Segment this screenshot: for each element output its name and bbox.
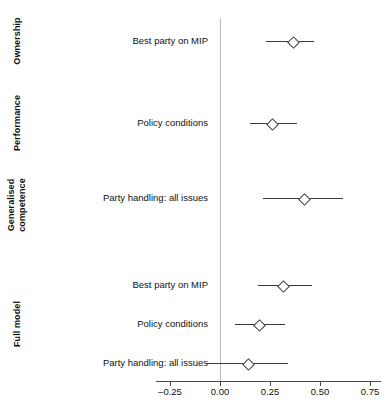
- point-estimate-marker: [298, 193, 311, 206]
- x-axis-tick-label: –0.25: [158, 386, 182, 397]
- point-estimate-marker: [287, 36, 300, 49]
- point-estimate-marker: [242, 358, 255, 371]
- x-axis-tick-label: 0.00: [211, 386, 230, 397]
- point-estimate-marker: [277, 280, 290, 293]
- point-estimate-marker: [253, 319, 266, 332]
- x-axis-tick-label: 0.25: [261, 386, 280, 397]
- zero-reference-line: [220, 18, 221, 381]
- forest-plot-figure: OwnershipPerformanceGeneralisedcompetenc…: [0, 0, 390, 418]
- plot-area: –0.250.000.250.500.75: [0, 0, 390, 418]
- x-axis-tick-label: 0.75: [361, 386, 380, 397]
- x-axis-tick-label: 0.50: [311, 386, 330, 397]
- x-axis-line: [156, 381, 381, 382]
- point-estimate-marker: [266, 118, 279, 131]
